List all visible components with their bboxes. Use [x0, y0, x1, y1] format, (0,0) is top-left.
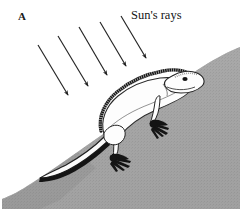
- sun-rays-label: Sun's rays: [131, 8, 182, 23]
- sun-ray-arrow-1: [38, 45, 68, 95]
- figure-panel-a: A Sun's rays: [0, 0, 251, 224]
- sun-ray-arrow-4: [100, 22, 126, 66]
- lizard-basking-illustration: [0, 0, 251, 224]
- sun-ray-arrow-3: [79, 27, 107, 75]
- panel-label-a: A: [18, 10, 26, 22]
- sun-ray-arrow-2: [58, 36, 88, 86]
- lizard-eye: [182, 77, 187, 81]
